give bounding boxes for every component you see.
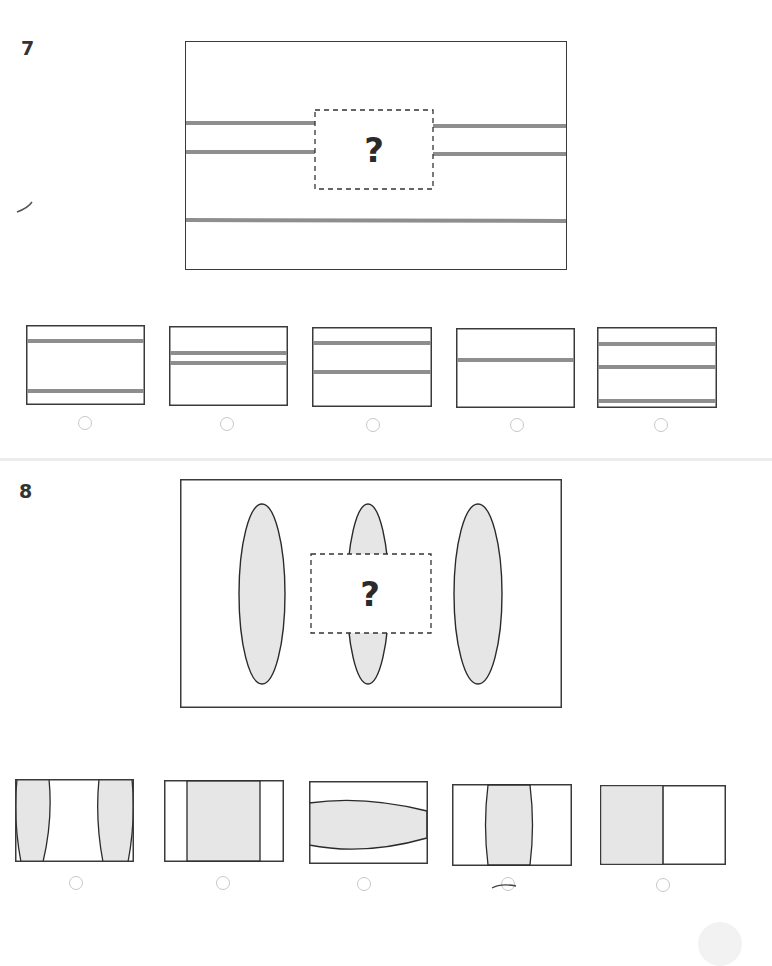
option-figure (164, 780, 284, 862)
option-radio[interactable] (654, 418, 668, 432)
option-figure (597, 327, 717, 408)
option-radio[interactable] (656, 878, 670, 892)
question-separator (0, 458, 772, 461)
option-radio[interactable] (220, 417, 234, 431)
option-figure (456, 328, 575, 408)
option-figure (309, 781, 428, 864)
scan-artifact (698, 922, 742, 966)
question-7-main-lines: ? (185, 41, 567, 270)
question-mark: ? (360, 574, 380, 614)
ellipse-left (239, 504, 285, 684)
option-radio[interactable] (216, 876, 230, 890)
question-7-number: 7 (21, 37, 34, 59)
option-figure (169, 326, 288, 406)
question-mark: ? (364, 130, 384, 170)
option-figure (15, 779, 134, 862)
pen-mark (491, 880, 521, 892)
option-radio[interactable] (69, 876, 83, 890)
question-8-number: 8 (19, 480, 32, 502)
ellipse-right (454, 504, 502, 684)
option-radio[interactable] (510, 418, 524, 432)
option-radio[interactable] (78, 416, 92, 430)
option-radio[interactable] (366, 418, 380, 432)
pen-mark (14, 196, 36, 216)
option-figure (312, 327, 432, 407)
option-figure (600, 785, 726, 865)
option-figure (26, 325, 145, 405)
question-8-main-figure: ? (180, 479, 562, 708)
option-radio[interactable] (357, 877, 371, 891)
option-figure (452, 784, 572, 866)
